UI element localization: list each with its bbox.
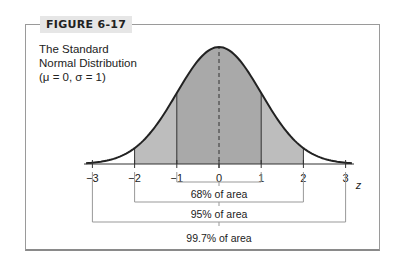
annotation-label: 99.7% of area bbox=[186, 232, 252, 244]
x-axis-label: z bbox=[355, 179, 362, 191]
normal-curve-chart: −3−2−10123z68% of area95% of area99.7% o… bbox=[0, 0, 397, 267]
annotation-label: 95% of area bbox=[191, 208, 248, 220]
annotation-label: 68% of area bbox=[191, 188, 248, 200]
